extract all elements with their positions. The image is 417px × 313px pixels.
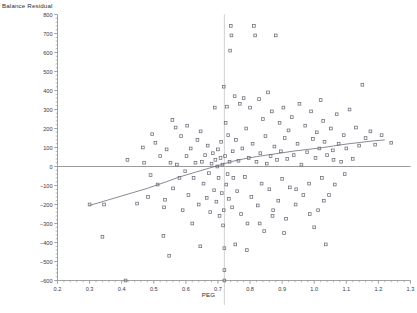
svg-text:−500: −500 xyxy=(40,259,53,265)
svg-text:500: 500 xyxy=(43,69,52,75)
svg-text:600: 600 xyxy=(43,50,52,56)
svg-text:−300: −300 xyxy=(40,221,53,227)
svg-text:300: 300 xyxy=(43,107,52,113)
axis-lines xyxy=(58,15,411,281)
x-axis-title: PEG xyxy=(0,291,417,298)
svg-text:400: 400 xyxy=(43,88,52,94)
x-axis-ticks xyxy=(58,281,411,284)
trend-line-path xyxy=(90,140,385,206)
svg-text:100: 100 xyxy=(43,145,52,151)
svg-text:0: 0 xyxy=(49,164,52,170)
svg-text:800: 800 xyxy=(43,12,52,18)
scatter-plot-canvas: −600−500−400−300−200−1000100200300400500… xyxy=(0,0,417,313)
reference-lines xyxy=(58,15,411,306)
svg-text:200: 200 xyxy=(43,126,52,132)
svg-text:−600: −600 xyxy=(40,278,53,284)
chart-container: Balance Residual −600−500−400−300−200−10… xyxy=(0,0,417,313)
svg-text:700: 700 xyxy=(43,31,52,37)
y-axis-ticks xyxy=(54,15,57,281)
svg-text:−200: −200 xyxy=(40,202,53,208)
data-point-markers xyxy=(88,25,392,282)
y-axis-tick-labels: −600−500−400−300−200−1000100200300400500… xyxy=(40,12,53,284)
svg-text:−100: −100 xyxy=(40,183,53,189)
svg-text:−400: −400 xyxy=(40,240,53,246)
